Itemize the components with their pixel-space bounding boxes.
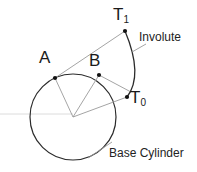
label-point-t0: T0 (130, 89, 146, 106)
point-marker-t0 (125, 95, 129, 99)
label-point-b: B (89, 52, 100, 69)
radius-line-center-t0 (73, 97, 127, 117)
involute-diagram: T1 T0 A B Involute Base Cylinder (0, 0, 197, 172)
point-marker-b (97, 73, 101, 77)
tangent-line-b-t0 (99, 75, 131, 92)
label-point-t0-letter: T (130, 88, 140, 107)
radius-line-center-a (55, 78, 73, 117)
point-marker-a (53, 76, 57, 80)
label-point-t0-subscript: 0 (140, 97, 146, 108)
label-point-t1: T1 (113, 6, 129, 23)
label-involute: Involute (139, 31, 181, 43)
label-point-t1-subscript: 1 (123, 14, 129, 25)
label-base-cylinder: Base Cylinder (109, 147, 184, 159)
label-point-t1-letter: T (113, 5, 123, 24)
involute-leader-line (132, 44, 146, 52)
radius-line-center-b (73, 75, 99, 117)
label-point-a: A (39, 49, 50, 66)
point-marker-t1 (123, 29, 127, 33)
